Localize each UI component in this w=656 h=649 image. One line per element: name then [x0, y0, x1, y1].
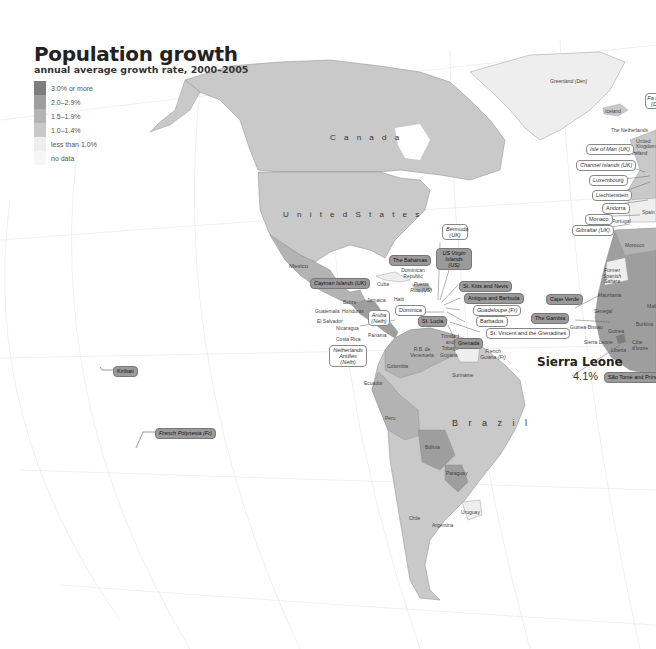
- label-senegal: Senegal: [594, 308, 612, 314]
- legend-label: 1.0–1.4%: [51, 127, 81, 134]
- label-bolivia: Bolivia: [425, 444, 440, 450]
- label-ireland: Ireland: [632, 150, 647, 156]
- label-united-states: U n i t e d S t a t e s: [283, 210, 422, 219]
- legend-label: 3.0% or more: [51, 85, 93, 92]
- legend-item: 1.0–1.4%: [34, 123, 97, 137]
- world-map: [0, 0, 656, 649]
- tag-us-virgin-islands: US Virgin Islands (US): [436, 248, 472, 270]
- tag-andorra: Andorra: [602, 203, 630, 214]
- label-dominican-republic: Dominican Republic: [397, 267, 429, 279]
- tag-isle-of-man: Isle of Man (UK): [586, 144, 634, 155]
- label-greenland: Greenland (Den): [550, 78, 587, 84]
- tag-st-vincent: St. Vincent and the Grenadines: [486, 328, 570, 339]
- tag-st-lucia: St. Lucia: [418, 316, 447, 327]
- label-chile: Chile: [409, 515, 420, 521]
- alaska: [150, 80, 200, 132]
- label-guyana: Guyana: [440, 352, 458, 358]
- tag-cayman-islands: Cayman Islands (UK): [310, 278, 370, 289]
- label-peru: Peru: [385, 415, 396, 421]
- legend-swatch: [34, 137, 46, 151]
- tag-channel-islands: Channel Islands (UK): [576, 160, 636, 171]
- map-stage: Population growth annual average growth …: [0, 0, 656, 649]
- canada: [185, 60, 505, 180]
- tag-french-polynesia: French Polynesia (Fr): [155, 428, 216, 439]
- kiribati-leader: [100, 367, 113, 370]
- label-burkina: Burkina: [636, 321, 653, 327]
- tag-bermuda: Bermuda (UK): [442, 224, 468, 240]
- tag-the-gambia: The Gambia: [531, 313, 569, 324]
- legend-item: 3.0% or more: [34, 81, 97, 95]
- tag-kiribati: Kiribati: [113, 366, 138, 377]
- label-colombia: Colombia: [387, 363, 408, 369]
- label-venezuela: R.B. de Venezuela: [408, 346, 436, 358]
- label-el-salvador: El Salvador: [317, 318, 343, 324]
- legend-swatch: [34, 123, 46, 137]
- label-suriname: Suriname: [452, 372, 473, 378]
- label-haiti: Haiti: [394, 296, 404, 302]
- legend-item: less than 1.0%: [34, 137, 97, 151]
- tag-st-kitts-and-nevis: St. Kitts and Nevis: [459, 281, 512, 292]
- label-cote-divoire: Côte d'Ivoire: [632, 340, 656, 351]
- legend-label: 2.0–2.9%: [51, 99, 81, 106]
- callout-country: Sierra Leone: [537, 355, 623, 369]
- tag-dominica: Dominica: [395, 305, 426, 316]
- label-uruguay: Uruguay: [461, 509, 480, 515]
- label-iceland: Iceland: [605, 108, 621, 114]
- legend-item: 1.5–1.9%: [34, 109, 97, 123]
- label-argentina: Argentina: [432, 522, 453, 528]
- label-paraguay: Paraguay: [446, 470, 467, 476]
- tag-netherlands-antilles: Netherlands Antilles (Neth): [329, 345, 367, 367]
- label-guatemala: Guatemala: [315, 308, 339, 314]
- legend-swatch: [34, 109, 46, 123]
- label-brazil: B r a z i l: [452, 418, 531, 428]
- label-liberia: Liberia: [611, 347, 626, 353]
- french-polynesia-leader: [136, 432, 155, 448]
- label-ecuador: Ecuador: [364, 380, 383, 386]
- tag-bahamas: The Bahamas: [389, 255, 431, 266]
- label-mexico: Mexico: [289, 263, 308, 269]
- legend-label: 1.5–1.9%: [51, 113, 81, 120]
- legend-swatch: [34, 81, 46, 95]
- label-mali: Mali: [647, 303, 656, 309]
- map-title: Population growth: [34, 42, 238, 66]
- map-subtitle: annual average growth rate, 2000–2005: [34, 64, 248, 75]
- label-honduras: Honduras: [342, 308, 364, 314]
- label-former-spanish-sahara: Former Spanish Sahara: [598, 268, 626, 285]
- legend: 3.0% or more 2.0–2.9% 1.5–1.9% 1.0–1.4% …: [34, 81, 97, 165]
- label-jamaica: Jamaica: [367, 297, 386, 303]
- legend-swatch: [34, 95, 46, 109]
- label-nicaragua: Nicaragua: [336, 325, 359, 331]
- label-belize: Belize: [343, 299, 357, 305]
- label-united-kingdom: United Kingdom: [636, 139, 656, 149]
- legend-label: no data: [51, 155, 74, 162]
- label-guinea-bissau: Guinea-Bissau: [570, 324, 603, 330]
- label-canada: C a n a d a: [330, 133, 402, 142]
- label-portugal: Portugal: [612, 218, 631, 224]
- legend-item: 2.0–2.9%: [34, 95, 97, 109]
- callout-value: 4.1%: [573, 370, 598, 382]
- tag-grenada: Grenada: [454, 338, 483, 349]
- label-puerto-rico: Puerto Rico (US): [410, 281, 432, 293]
- tag-monaco: Monaco: [585, 214, 613, 225]
- label-sierra-leone-small: Sierra Leone: [584, 339, 613, 345]
- label-cuba: Cuba: [377, 281, 389, 287]
- tag-luxembourg: Luxembourg: [589, 175, 628, 186]
- legend-label: less than 1.0%: [51, 141, 97, 148]
- label-guinea: Guinea: [608, 328, 624, 334]
- tag-faroe: Fa Isl (D: [645, 93, 656, 109]
- label-spain: Spain: [642, 209, 655, 215]
- tag-cape-verde: Cape Verde: [546, 294, 583, 305]
- label-panama: Panama: [368, 332, 387, 338]
- tag-gibraltar: Gibraltar (UK): [572, 225, 614, 236]
- tag-liechtenstein: Liechtenstein: [592, 190, 632, 201]
- label-netherlands: The Netherlands: [611, 127, 648, 133]
- label-morocco: Morocco: [625, 242, 644, 248]
- label-costa-rica: Costa Rica: [336, 336, 360, 342]
- tag-aruba: Aruba (Neth): [368, 310, 390, 326]
- legend-swatch: [34, 151, 46, 165]
- legend-item: no data: [34, 151, 97, 165]
- tag-guadeloupe: Guadeloupe (Fr): [473, 305, 521, 316]
- tag-sao-tome: São Tomé and Prínc: [604, 372, 656, 383]
- tag-barbados: Barbados: [476, 316, 508, 327]
- tag-antigua-and-barbuda: Antigua and Barbuda: [464, 293, 524, 304]
